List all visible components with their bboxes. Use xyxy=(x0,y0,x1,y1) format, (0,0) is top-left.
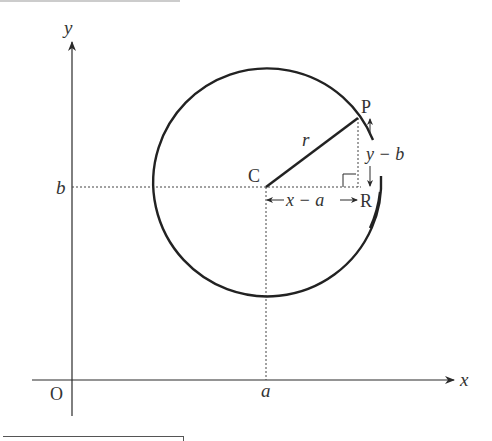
origin-label: O xyxy=(50,384,63,404)
y-axis-label: y xyxy=(62,17,73,38)
bottom-border-fragment xyxy=(3,436,184,441)
radius-line xyxy=(266,118,358,187)
center-label-c: C xyxy=(248,166,260,186)
right-angle-marker xyxy=(343,174,356,187)
x-axis-label: x xyxy=(459,369,469,390)
y-minus-b-label: y − b xyxy=(364,144,404,164)
radius-label: r xyxy=(302,129,310,150)
circle xyxy=(153,68,381,296)
point-label-p: P xyxy=(361,97,371,117)
b-tick-label: b xyxy=(56,177,66,198)
a-tick-label: a xyxy=(261,380,271,401)
point-label-r: R xyxy=(360,191,372,211)
x-minus-a-label: x − a xyxy=(285,190,324,210)
